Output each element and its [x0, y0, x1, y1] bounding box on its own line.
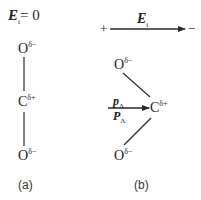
field-symbol: E	[8, 7, 18, 23]
atom-symbol: C	[150, 100, 159, 115]
atom-b-oxygen-bottom: Oδ−	[114, 149, 132, 163]
atom-symbol: O	[114, 57, 124, 72]
field-symbol: E	[137, 11, 146, 26]
field-minus-sign: −	[188, 22, 195, 35]
field-equals: = 0	[20, 7, 40, 23]
atom-symbol: C	[18, 94, 27, 109]
caption-b: (b)	[134, 179, 149, 191]
dipole-label-upper-p: PΛ	[113, 110, 125, 125]
field-zero-label: Ei= 0	[8, 8, 40, 26]
caption-a: (a)	[18, 179, 33, 191]
atom-a-oxygen-top: Oδ−	[18, 42, 36, 56]
field-plus-sign: +	[100, 22, 107, 35]
bond-b-bottom	[124, 118, 151, 145]
atom-charge: δ+	[159, 99, 167, 108]
bond-b-top	[123, 73, 150, 97]
atom-charge: δ−	[124, 147, 132, 156]
atom-a-oxygen-bottom: Oδ−	[18, 149, 36, 163]
atom-b-carbon: Cδ+	[150, 101, 168, 115]
dipole-subscript: Λ	[120, 117, 125, 125]
atom-charge: δ−	[28, 40, 36, 49]
atom-symbol: O	[18, 41, 28, 56]
field-subscript: i	[146, 21, 148, 29]
atom-charge: δ−	[28, 147, 36, 156]
field-arrow-label: Ei	[137, 12, 148, 29]
atom-symbol: O	[114, 148, 124, 163]
atom-charge: δ−	[124, 56, 132, 65]
atom-charge: δ+	[27, 93, 35, 102]
atom-a-carbon: Cδ+	[18, 95, 36, 109]
atom-b-oxygen-top: Oδ−	[114, 58, 132, 72]
atom-symbol: O	[18, 148, 28, 163]
